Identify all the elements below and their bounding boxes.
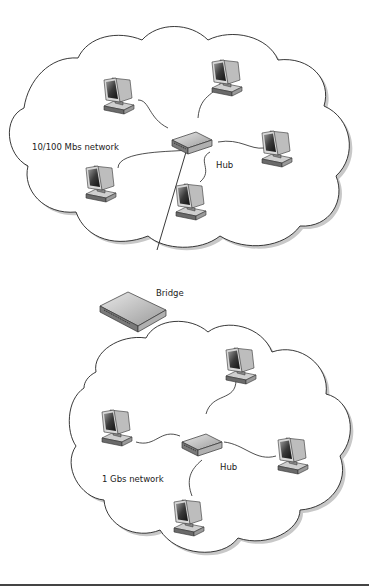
computer-icon bbox=[176, 184, 206, 220]
computer-icon bbox=[278, 438, 308, 474]
computer-icon bbox=[86, 166, 116, 202]
computer-icon bbox=[104, 78, 134, 114]
network-label-top: 10/100 Mbs network bbox=[32, 142, 119, 152]
network-label-bottom: 1 Gbs network bbox=[102, 474, 164, 484]
computer-icon bbox=[102, 410, 132, 446]
hub-label-top: Hub bbox=[216, 160, 233, 170]
computer-icon bbox=[262, 131, 292, 167]
network-diagram: 10/100 Mbs network Hub Bridge 1 Gbs netw… bbox=[0, 0, 369, 587]
bridge-device bbox=[100, 292, 166, 332]
hub-label-bottom: Hub bbox=[220, 462, 237, 472]
computer-icon bbox=[174, 500, 204, 536]
page-divider bbox=[0, 584, 369, 586]
bridge-label: Bridge bbox=[156, 288, 184, 298]
computer-icon bbox=[226, 348, 256, 384]
computer-icon bbox=[212, 60, 242, 96]
